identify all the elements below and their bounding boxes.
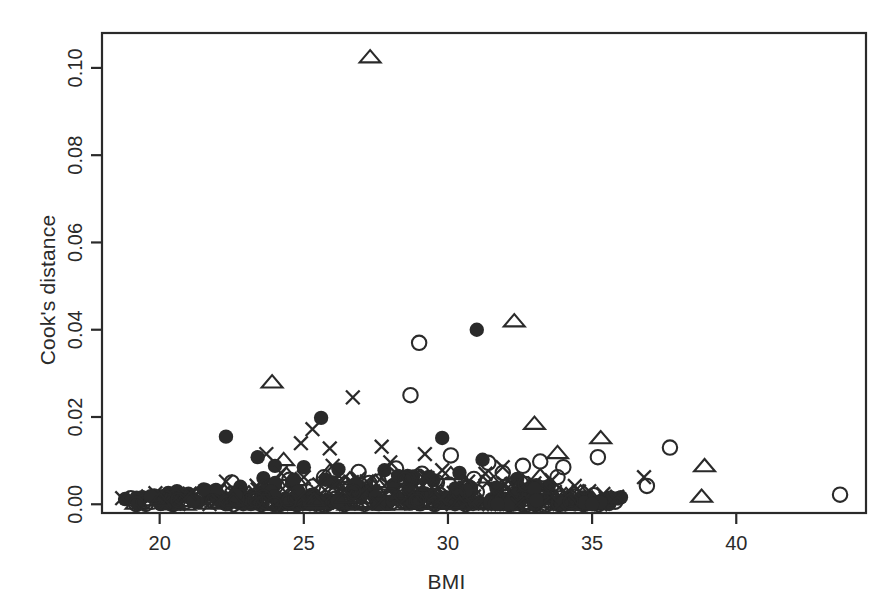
- data-point-open-triangle: [694, 459, 715, 471]
- data-point-open-circle: [403, 388, 417, 402]
- data-point-open-circle: [533, 454, 547, 468]
- data-point-open-circle: [833, 487, 847, 501]
- y-axis-label: Cook's distance: [36, 170, 60, 410]
- data-point-open-circle: [412, 336, 426, 350]
- data-point-open-triangle: [524, 417, 545, 429]
- data-points: [115, 50, 847, 511]
- y-tick-label: 0.00: [64, 485, 86, 524]
- data-point-filled-circle: [490, 497, 504, 511]
- data-point-open-circle: [444, 448, 458, 462]
- y-tick-label: 0.08: [64, 136, 86, 175]
- data-point-filled-circle: [435, 431, 449, 445]
- x-axis-label: BMI: [0, 570, 893, 594]
- data-point-filled-circle: [348, 477, 362, 491]
- x-tick-label: 20: [149, 532, 171, 554]
- data-point-open-circle: [663, 440, 677, 454]
- data-point-cross-x: [637, 470, 651, 484]
- data-point-open-triangle: [262, 375, 283, 387]
- data-point-cross-x: [306, 422, 320, 436]
- data-point-open-triangle: [504, 314, 525, 326]
- data-point-cross-x: [294, 436, 308, 450]
- x-tick-label: 40: [725, 532, 747, 554]
- x-tick-label: 30: [437, 532, 459, 554]
- plot-frame: [102, 33, 866, 513]
- data-point-open-triangle: [590, 431, 611, 443]
- data-point-filled-circle: [585, 497, 599, 511]
- data-point-filled-circle: [314, 411, 328, 425]
- y-tick-label: 0.10: [64, 48, 86, 87]
- y-tick-label: 0.04: [64, 310, 86, 349]
- data-point-open-triangle: [360, 50, 381, 62]
- y-tick-label: 0.06: [64, 223, 86, 262]
- scatter-plot-figure: 20253035400.000.020.040.060.080.10 Cook'…: [0, 0, 893, 616]
- data-point-cross-x: [375, 440, 389, 454]
- data-point-open-circle: [516, 459, 530, 473]
- x-tick-label: 25: [293, 532, 315, 554]
- data-point-open-triangle: [547, 446, 568, 458]
- data-point-filled-circle: [529, 493, 543, 507]
- y-tick-label: 0.02: [64, 398, 86, 437]
- plot-canvas: 20253035400.000.020.040.060.080.10: [0, 0, 893, 616]
- series-dense-cluster: [126, 469, 624, 512]
- data-point-filled-circle: [470, 323, 484, 337]
- data-point-cross-x: [418, 447, 432, 461]
- data-point-open-triangle: [691, 489, 712, 501]
- data-point-open-circle: [591, 450, 605, 464]
- data-point-cross-x: [346, 391, 360, 405]
- data-point-filled-circle: [219, 429, 233, 443]
- data-point-cross-x: [323, 442, 337, 456]
- x-tick-label: 35: [581, 532, 603, 554]
